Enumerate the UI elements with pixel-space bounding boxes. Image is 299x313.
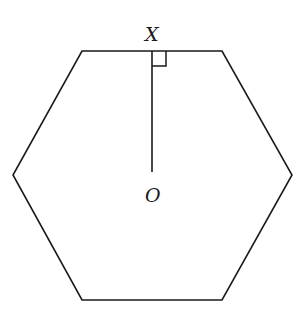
label-o: O	[145, 184, 161, 206]
right-angle-marker	[152, 51, 166, 66]
hexagon-diagram: X O	[0, 0, 299, 313]
label-x: X	[143, 23, 160, 45]
